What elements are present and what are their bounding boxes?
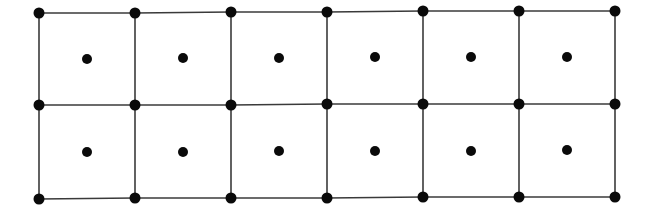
corner-node-dot xyxy=(418,99,429,110)
diagram-background xyxy=(0,0,648,219)
cell-center-dot xyxy=(274,53,284,63)
cell-center-dot xyxy=(82,147,92,157)
corner-node-dot xyxy=(34,8,45,19)
corner-node-dot xyxy=(322,7,333,18)
cell-center-dot xyxy=(274,146,284,156)
cell-center-dot xyxy=(370,52,380,62)
grid-edge-horizontal xyxy=(231,104,327,105)
corner-node-dot xyxy=(610,6,621,17)
corner-node-dot xyxy=(418,192,429,203)
corner-node-dot xyxy=(418,6,429,17)
corner-node-dot xyxy=(130,100,141,111)
grid-diagram xyxy=(0,0,648,219)
corner-node-dot xyxy=(34,194,45,205)
cell-center-dot xyxy=(178,147,188,157)
corner-node-dot xyxy=(130,8,141,19)
corner-node-dot xyxy=(226,7,237,18)
cell-center-dot xyxy=(466,52,476,62)
corner-node-dot xyxy=(130,193,141,204)
corner-node-dot xyxy=(322,193,333,204)
grid-edge-horizontal xyxy=(135,12,231,13)
grid-edge-horizontal xyxy=(39,198,135,199)
corner-node-dot xyxy=(514,192,525,203)
corner-node-dot xyxy=(226,193,237,204)
cell-center-dot xyxy=(178,53,188,63)
corner-node-dot xyxy=(226,100,237,111)
cell-center-dot xyxy=(466,146,476,156)
corner-node-dot xyxy=(514,6,525,17)
cell-center-dot xyxy=(562,52,572,62)
corner-node-dot xyxy=(322,99,333,110)
corner-node-dot xyxy=(514,99,525,110)
cell-center-dot xyxy=(370,146,380,156)
corner-node-dot xyxy=(610,99,621,110)
corner-node-dot xyxy=(610,192,621,203)
corner-node-dot xyxy=(34,100,45,111)
cell-center-dot xyxy=(82,54,92,64)
cell-center-dot xyxy=(562,145,572,155)
grid-edge-horizontal xyxy=(327,11,423,12)
grid-edge-horizontal xyxy=(327,197,423,198)
